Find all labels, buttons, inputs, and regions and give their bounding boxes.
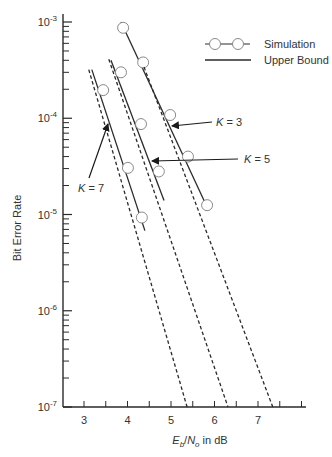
axes: 3456710-310-410-510-610-7: [38, 14, 306, 426]
legend: SimulationUpper Bound: [205, 38, 329, 66]
simulation-line: [121, 22, 206, 205]
series-simulation-k-7: [92, 70, 148, 231]
annotation-arrow: [172, 122, 212, 126]
series-simulation-k-5: [111, 60, 164, 200]
simulation-marker: [202, 200, 213, 211]
y-tick-label: 10-7: [38, 399, 58, 413]
simulation-marker: [118, 22, 129, 33]
simulation-marker: [122, 162, 133, 173]
simulation-line: [111, 60, 164, 200]
series-upper-bound-k-3: [144, 67, 273, 407]
x-tick-label: 6: [211, 414, 217, 426]
series-layer: [89, 22, 273, 407]
y-tick-label: 10-6: [38, 303, 58, 317]
simulation-marker: [136, 212, 147, 223]
chart-svg: 3456710-310-410-510-610-7 K = 3K = 5K = …: [0, 0, 332, 457]
simulation-marker: [135, 119, 146, 130]
x-tick-label: 5: [168, 414, 174, 426]
simulation-marker: [98, 85, 109, 96]
y-tick-label: 10-5: [38, 207, 58, 221]
annotations-layer: K = 3K = 5K = 7: [78, 116, 270, 194]
legend-simulation-label: Simulation: [264, 38, 315, 50]
legend-simulation-marker: [210, 39, 221, 50]
ber-chart: 3456710-310-410-510-610-7 K = 3K = 5K = …: [0, 0, 332, 457]
x-tick-label: 7: [255, 414, 261, 426]
annotation-label: K = 3: [216, 116, 242, 128]
annotation-label: K = 7: [78, 182, 104, 194]
upper-bound-line: [144, 67, 273, 407]
annotation-label: K = 5: [244, 153, 270, 165]
y-axis-label: Bit Error Rate: [11, 195, 23, 262]
legend-upper-bound-label: Upper Bound: [264, 54, 329, 66]
y-tick-label: 10-3: [38, 14, 58, 28]
simulation-marker: [138, 57, 149, 68]
annotation-arrow: [89, 124, 108, 178]
annotation-arrow: [152, 159, 238, 161]
simulation-marker: [115, 67, 126, 78]
simulation-marker: [165, 110, 176, 121]
legend-simulation-marker: [233, 39, 244, 50]
x-tick-label: 3: [81, 414, 87, 426]
x-axis-label: Eb/No in dB: [172, 434, 227, 449]
y-tick-label: 10-4: [38, 110, 58, 124]
x-tick-label: 4: [124, 414, 130, 426]
simulation-marker: [153, 166, 164, 177]
